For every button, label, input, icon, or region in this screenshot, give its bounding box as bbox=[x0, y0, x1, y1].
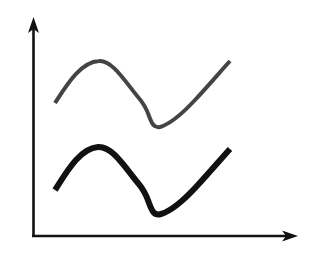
upper-curve-line bbox=[55, 61, 230, 127]
chart-canvas bbox=[0, 0, 312, 255]
lower-curve-line bbox=[55, 147, 230, 214]
line-chart bbox=[0, 0, 312, 255]
